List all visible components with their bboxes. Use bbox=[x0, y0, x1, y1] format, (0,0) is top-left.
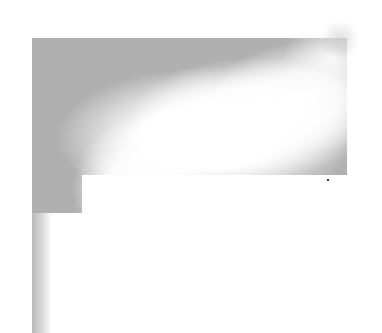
shaded-figure bbox=[0, 0, 382, 333]
dark-speck bbox=[327, 179, 329, 181]
white-area bbox=[82, 175, 382, 333]
left-shaded-strip bbox=[32, 213, 52, 333]
corner-fade bbox=[320, 20, 360, 60]
